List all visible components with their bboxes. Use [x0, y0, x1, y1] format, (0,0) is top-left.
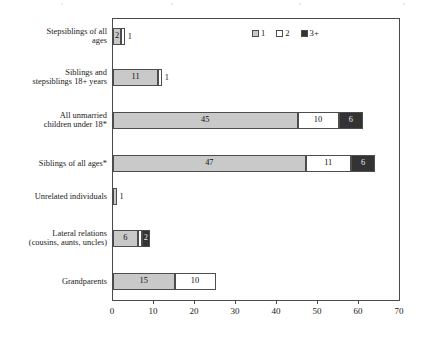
bar-segment[interactable]: 2: [142, 230, 150, 247]
category-label: Unrelated individuals: [0, 192, 107, 202]
bar-value-label: 6: [349, 116, 353, 124]
bar-segment[interactable]: 11: [306, 155, 351, 172]
bar-segment[interactable]: 11: [113, 69, 158, 86]
bar-row[interactable]: 47116: [113, 155, 375, 172]
x-axis-tick-label: 0: [110, 306, 115, 317]
bar-segment[interactable]: 10: [175, 273, 216, 290]
bar-segment[interactable]: 15: [113, 273, 175, 290]
bar-value-label: 11: [324, 159, 332, 167]
bar-row[interactable]: 111: [113, 69, 162, 86]
bar-row[interactable]: 1: [113, 188, 117, 205]
bar-value-label: 11: [132, 73, 140, 81]
bar-segment[interactable]: 45: [113, 112, 298, 129]
bar-segment[interactable]: 6: [351, 155, 376, 172]
category-label: Stepsiblings of allages: [0, 27, 107, 46]
scan-artifact: [0, 2, 424, 6]
legend-item[interactable]: 3+: [301, 29, 319, 38]
category-label-line: (cousins, aunts, uncles): [0, 238, 107, 248]
category-label-line: ages: [0, 36, 107, 46]
bar-value-label-outside: 1: [128, 31, 132, 42]
bar-segment[interactable]: [121, 28, 125, 45]
x-axis-tick-label: 20: [190, 306, 199, 317]
category-axis-labels: Stepsiblings of allagesSiblings andsteps…: [0, 18, 110, 301]
legend-swatch-icon: [252, 30, 259, 37]
category-label-line: Grandparents: [0, 277, 107, 287]
category-label-line: Siblings and: [0, 68, 107, 78]
x-axis-tick: [194, 301, 195, 304]
legend-item[interactable]: 2: [276, 29, 289, 38]
bar-value-label: 2: [144, 234, 148, 242]
category-label-line: Stepsiblings of all: [0, 27, 107, 37]
x-axis-tick-label: 30: [231, 306, 240, 317]
bar-value-label: 45: [201, 116, 209, 124]
bar-value-label: 6: [123, 234, 127, 242]
x-axis-tick: [317, 301, 318, 304]
bar-segment[interactable]: 10: [298, 112, 339, 129]
x-axis: 010203040506070: [112, 301, 400, 331]
legend-label: 3+: [310, 29, 319, 38]
bar-value-label: 6: [361, 159, 365, 167]
bar-segment[interactable]: 6: [113, 230, 138, 247]
category-label-line: Unrelated individuals: [0, 192, 107, 202]
bar-row[interactable]: 62: [113, 230, 150, 247]
category-label-line: stepsiblings 18+ years: [0, 77, 107, 87]
x-axis-tick-label: 10: [149, 306, 158, 317]
bar-value-label: 2: [115, 32, 119, 40]
legend-label: 1: [261, 29, 265, 38]
legend-item[interactable]: 1: [252, 29, 265, 38]
bar-row[interactable]: 1510: [113, 273, 216, 290]
bars-layer: 2111145106471161621510: [113, 18, 400, 301]
bar-row[interactable]: 45106: [113, 112, 363, 129]
x-axis-tick-label: 60: [354, 306, 363, 317]
legend-swatch-icon: [301, 30, 308, 37]
bar-value-label: 10: [314, 116, 322, 124]
x-axis-tick: [358, 301, 359, 304]
chart-legend: 123+: [252, 29, 319, 38]
bar-segment[interactable]: 47: [113, 155, 306, 172]
x-axis-tick: [153, 301, 154, 304]
bar-segment[interactable]: [113, 188, 117, 205]
category-label: Grandparents: [0, 277, 107, 287]
category-label: All unmarriedchildren under 18*: [0, 111, 107, 130]
bar-segment[interactable]: 2: [113, 28, 121, 45]
bar-row[interactable]: 21: [113, 28, 125, 45]
bar-value-label: 10: [191, 277, 199, 285]
category-label: Siblings of all ages*: [0, 159, 107, 169]
category-label-line: All unmarried: [0, 111, 107, 121]
bar-segment[interactable]: 6: [339, 112, 364, 129]
category-label-line: Siblings of all ages*: [0, 159, 107, 169]
x-axis-tick: [235, 301, 236, 304]
x-axis-tick-label: 50: [313, 306, 322, 317]
category-label-line: children under 18*: [0, 120, 107, 130]
bar-value-label: 15: [140, 277, 148, 285]
category-label: Lateral relations(cousins, aunts, uncles…: [0, 229, 107, 248]
x-axis-tick-label: 40: [272, 306, 281, 317]
bar-value-label-outside: 1: [165, 72, 169, 83]
bar-value-label-outside: 1: [120, 191, 124, 202]
x-axis-tick-label: 70: [395, 306, 404, 317]
legend-label: 2: [285, 29, 289, 38]
legend-swatch-icon: [276, 30, 283, 37]
stacked-bar-chart: Stepsiblings of allagesSiblings andsteps…: [0, 0, 424, 337]
x-axis-tick: [276, 301, 277, 304]
category-label: Siblings andstepsiblings 18+ years: [0, 68, 107, 87]
bar-segment[interactable]: [158, 69, 162, 86]
category-label-line: Lateral relations: [0, 229, 107, 239]
bar-value-label: 47: [205, 159, 213, 167]
